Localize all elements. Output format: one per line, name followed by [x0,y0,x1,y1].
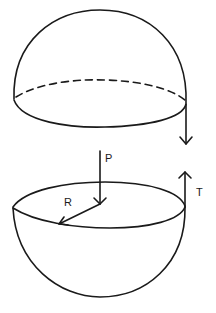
lower-bowl-outline [13,207,185,297]
upper-dome-outline [14,10,186,103]
lower-hemisphere [13,182,185,297]
lower-rim-front-edge [13,207,185,228]
tension-arrow-up [179,172,191,207]
upper-base-front-edge [14,100,186,127]
tension-label: T [196,186,203,198]
pressure-label: P [105,152,112,164]
radius-label: R [64,196,72,208]
upper-base-hidden-edge [16,80,185,100]
hemisphere-force-diagram: P R T [0,0,216,313]
upper-hemisphere [14,10,186,127]
